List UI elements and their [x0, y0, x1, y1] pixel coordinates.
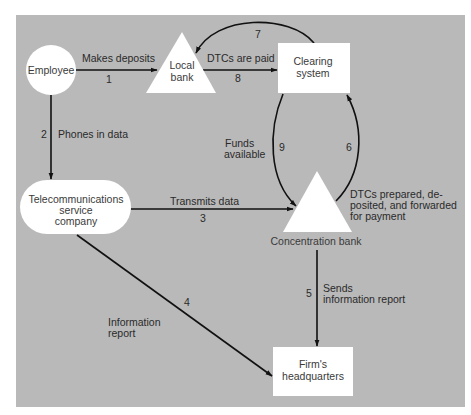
edge-6-label-line3: for payment: [350, 210, 406, 222]
edge-5-label-line2: information report: [323, 293, 405, 305]
edge-9-number: 9: [279, 141, 285, 153]
edge-8-number: 8: [235, 72, 241, 84]
edge-9-label-line2: available: [224, 148, 266, 160]
node-clearing-system: Clearing system: [278, 43, 350, 93]
clearing-system-label-line2: system: [296, 67, 330, 79]
edge-4-number: 4: [184, 296, 190, 308]
concentration-bank-label: Concentration bank: [270, 235, 362, 247]
edge-5-number: 5: [306, 287, 312, 299]
headquarters-label-line1: Firm's: [299, 358, 327, 370]
edge-4-label-line2: report: [108, 327, 136, 339]
node-firms-headquarters: Firm's headquarters: [273, 347, 353, 396]
telecom-label-line3: company: [55, 215, 98, 227]
edge-3-number: 3: [200, 212, 206, 224]
node-employee: Employee: [26, 45, 76, 95]
edge-7-number: 7: [255, 28, 261, 40]
edge-3-label: Transmits data: [170, 195, 239, 207]
edge-1-number: 1: [106, 73, 112, 85]
cash-concentration-flow-diagram: Employee Local bank Clearing system Tele…: [0, 0, 471, 415]
edge-1-label: Makes deposits: [82, 52, 155, 64]
clearing-system-label-line1: Clearing: [293, 55, 332, 67]
headquarters-label-line2: headquarters: [282, 370, 344, 382]
edge-8-label: DTCs are paid: [207, 52, 275, 64]
edge-2-label: Phones in data: [58, 128, 128, 140]
employee-label: Employee: [28, 64, 75, 76]
node-telecom-company: Telecommunications service company: [20, 180, 131, 234]
local-bank-label-line1: Local: [169, 59, 194, 71]
edge-6-number: 6: [346, 141, 352, 153]
edge-2-number: 2: [41, 128, 47, 140]
local-bank-label-line2: bank: [171, 71, 195, 83]
